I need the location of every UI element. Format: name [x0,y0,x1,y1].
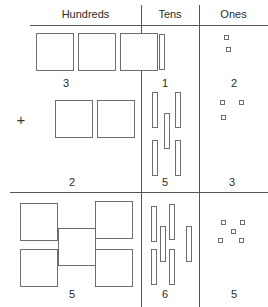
digit-ones-addend-2: 3 [222,176,242,188]
digit-ones-sum: 5 [224,288,244,300]
digit-tens-addend-2: 5 [155,176,175,188]
hundreds-block [20,249,58,287]
column-header-ones: Ones [199,8,268,20]
digit-hundreds-addend-1: 3 [56,77,76,89]
addition-operator: + [14,113,28,127]
digit-ones-addend-1: 2 [224,77,244,89]
ones-block [221,115,226,120]
tens-block [160,226,166,262]
tens-block [169,204,175,240]
tens-block [175,140,181,176]
ones-block [240,220,245,225]
digit-tens-addend-1: 1 [155,77,175,89]
place-value-chart: Hundreds Tens Ones + 3 1 2 2 5 3 [0,0,268,307]
tens-ones-divider-line [199,5,200,307]
sum-divider-line [10,192,268,193]
ones-block [220,100,225,105]
hundreds-block [120,33,158,71]
hundreds-block [97,100,135,138]
hundreds-block [78,33,116,71]
ones-block [239,238,244,243]
ones-block [221,220,226,225]
tens-block [169,249,175,285]
ones-block [226,47,231,52]
tens-block [164,113,170,149]
digit-hundreds-addend-2: 2 [62,176,82,188]
hundreds-block [55,100,93,138]
tens-block [186,226,192,262]
tens-block [159,34,165,70]
tens-block [152,92,158,128]
digit-tens-sum: 6 [155,288,175,300]
hundreds-block [95,249,133,287]
header-divider-line [30,25,268,26]
hundreds-block [36,33,74,71]
ones-block [231,229,236,234]
tens-block [151,249,157,285]
hundreds-block [58,228,96,266]
hundreds-block [20,203,58,241]
tens-block [175,92,181,128]
digit-hundreds-sum: 5 [62,288,82,300]
ones-block [218,238,223,243]
column-header-hundreds: Hundreds [30,8,141,20]
column-header-tens: Tens [141,8,199,20]
hundreds-block [95,201,133,239]
tens-block [151,206,157,242]
tens-block [152,140,158,176]
ones-block [239,100,244,105]
ones-block [224,35,229,40]
